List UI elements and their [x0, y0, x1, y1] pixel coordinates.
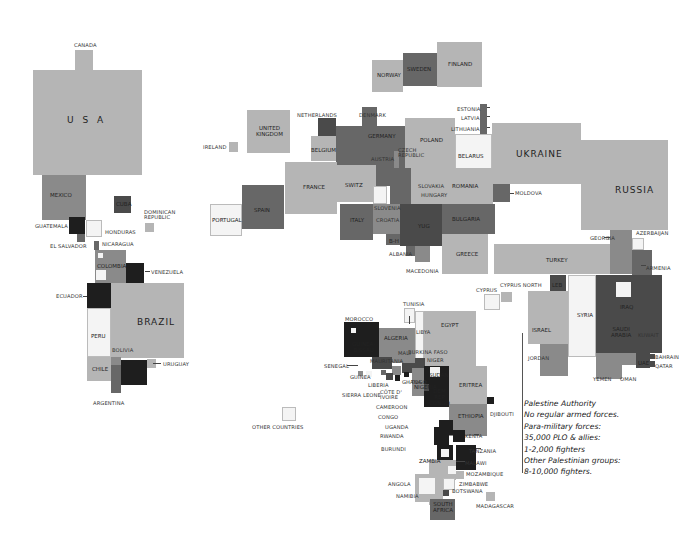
belgium-label: BELGIUM — [311, 148, 336, 154]
niger-label: NIGER — [427, 358, 444, 363]
italy-label: ITALY — [350, 218, 364, 224]
note-line-6: Other Palestinian groups: — [524, 455, 621, 466]
slovakia-label: SLOVAKIA — [418, 184, 444, 189]
ukraine-label: UKRAINE — [516, 150, 563, 159]
argentina-block — [111, 365, 121, 393]
romania-label: ROMANIA — [452, 184, 478, 190]
latvia-label: LATVIA — [461, 116, 480, 121]
norway-label: NORWAY — [377, 73, 401, 79]
cyprus-north-block — [501, 292, 512, 302]
morocco-label: MOROCCO — [345, 317, 373, 322]
el-salvador-block — [77, 234, 85, 242]
malawi-block — [448, 466, 456, 474]
burundi-label: BURUNDI — [381, 447, 406, 452]
note-line-5: 1-2,000 fighters — [524, 444, 621, 455]
cyprus-north-label: CYPRUS NORTH — [500, 283, 542, 288]
paraguay-block — [121, 360, 147, 385]
honduras-block — [86, 220, 102, 237]
leader-line — [510, 193, 514, 194]
malawi-label: MALAWI — [465, 461, 487, 466]
peru-label: PERU — [91, 334, 106, 340]
bolivia-block — [111, 357, 121, 365]
qatar-label: QATAR — [655, 364, 673, 369]
morocco-inset-block — [351, 328, 356, 333]
hungary-block — [390, 168, 411, 204]
uae-label: UAE — [638, 361, 649, 367]
bulgaria-label: BULGARIA — [452, 217, 480, 223]
argentina-label: ARGENTINA — [93, 401, 124, 406]
turkey-label: TURKEY — [546, 258, 568, 264]
note-line-2: No regular armed forces. — [524, 409, 621, 420]
iraq-inset-block — [616, 282, 631, 297]
iraq-label: IRAQ — [620, 305, 633, 311]
leader-line — [487, 107, 490, 108]
portugal-label: PORTUGAL — [212, 218, 242, 224]
togo-block — [404, 372, 409, 377]
switz-label: SWITZ — [345, 183, 363, 189]
sudan-label: SUDAN — [429, 373, 449, 379]
namibia-label: NAMIBIA — [396, 494, 419, 499]
el-salvador-label: EL SALVADOR — [50, 244, 87, 249]
honduras-label: HONDURAS — [105, 230, 136, 235]
leader-line — [83, 296, 87, 297]
madagascar-label: MADAGASCAR — [476, 504, 514, 509]
south-africa-label: SOUTH AFRICA — [433, 502, 453, 514]
jordan-label: JORDAN — [528, 356, 549, 361]
netherlands-label: NETHERLANDS — [297, 113, 337, 118]
leb-label: LEB — [552, 283, 562, 289]
spain-label: SPAIN — [254, 208, 270, 214]
kenya-block — [453, 430, 465, 442]
macedonia-block — [415, 246, 430, 262]
tunisia-label: TUNISIA — [403, 302, 424, 307]
mexico-label: MEXICO — [50, 193, 72, 199]
moldova-label: MOLDOVA — [515, 191, 542, 196]
bolivia-label: BOLIVIA — [112, 348, 133, 353]
djibouti-label: DJIBOUTI — [490, 412, 514, 417]
macedonia-label: MACEDONIA — [406, 269, 439, 274]
poland-label: POLAND — [420, 138, 443, 144]
cameroon-label: CAMEROON — [376, 405, 407, 410]
slovenia-block — [373, 186, 387, 204]
note-line-3: Para-military forces: — [524, 421, 621, 432]
congo-label: CONGO — [378, 415, 398, 420]
slovenia-label: SLOVENIA — [374, 206, 401, 211]
hungary-label: HUNGARY — [421, 193, 447, 198]
france-label: FRANCE — [303, 185, 325, 191]
cyprus-block — [484, 294, 500, 310]
colombia-label: COLOMBIA — [97, 264, 126, 270]
palestine-note: Palestine Authority No regular armed for… — [524, 398, 621, 478]
russia-label: RUSSIA — [615, 186, 654, 195]
nicaragua-label: NICARAGUA — [102, 242, 134, 247]
algeria-label: ALGERIA — [384, 336, 408, 342]
rwanda-label: RWANDA — [380, 434, 404, 439]
yemen-label: YEMEN — [593, 377, 612, 382]
palestine-leader-line — [522, 333, 523, 473]
lithuania-block — [480, 120, 487, 134]
tanzania-inset-block — [441, 449, 449, 457]
sweden-label: SWEDEN — [407, 67, 431, 73]
djibouti-block — [487, 397, 494, 404]
azerbaijan-label: AZERBAIJAN — [636, 231, 669, 236]
leader-line — [347, 365, 358, 366]
uk-label: UNITED KINGDOM — [256, 126, 283, 138]
angola-inset-block — [419, 478, 435, 494]
liberia-label: LIBERIA — [368, 383, 389, 388]
greece-label: GREECE — [456, 252, 478, 258]
botswana-block — [443, 490, 449, 496]
ghana-block — [395, 375, 400, 381]
ireland-label: IRELAND — [203, 145, 227, 150]
mozambique-block — [456, 471, 464, 479]
cyprus-label: CYPRUS — [476, 288, 497, 293]
leader-line — [474, 434, 479, 435]
guinea-label: GUINEA — [350, 375, 371, 380]
lithuania-label: LITHUANIA — [451, 127, 480, 132]
estonia-label: ESTONIA — [457, 107, 480, 112]
leader-line — [145, 271, 150, 272]
mozambique-label: MOZAMBIQUE — [466, 472, 503, 477]
cote-block — [386, 373, 393, 380]
oman-block — [622, 353, 636, 365]
leader-line — [476, 448, 481, 449]
chile-label: CHILE — [92, 367, 108, 373]
leader-line — [641, 265, 646, 266]
cote-label: CÔTE d' IVOIRE — [380, 390, 402, 400]
